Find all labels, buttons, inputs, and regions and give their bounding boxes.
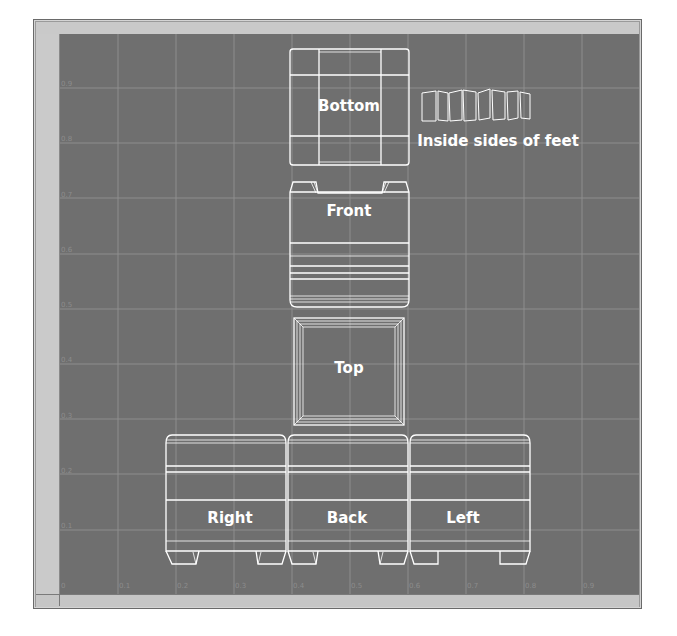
svg-text:0.6: 0.6: [61, 246, 73, 254]
svg-text:0.4: 0.4: [61, 356, 73, 364]
label-right: Right: [207, 509, 252, 527]
label-bottom: Bottom: [318, 97, 380, 115]
svg-text:0.8: 0.8: [525, 582, 536, 590]
svg-text:0.5: 0.5: [351, 582, 362, 590]
uv-shell-back[interactable]: [288, 435, 408, 564]
ruler-corner: [36, 594, 60, 606]
horizontal-scrollbar[interactable]: [36, 594, 639, 607]
svg-text:0.2: 0.2: [177, 582, 188, 590]
ruler-left: [36, 34, 60, 594]
uv-canvas: 0 0.1 0.2 0.3 0.4 0.5 0.6 0.7 0.8 0.9 0.…: [60, 34, 639, 594]
svg-text:0.4: 0.4: [293, 582, 305, 590]
svg-text:0.6: 0.6: [409, 582, 421, 590]
svg-text:0.8: 0.8: [61, 135, 72, 143]
uv-shell-left[interactable]: [410, 435, 530, 564]
uv-shell-inside-feet[interactable]: [422, 89, 530, 121]
svg-text:0: 0: [61, 582, 65, 590]
label-left: Left: [446, 509, 479, 527]
label-top: Top: [334, 359, 364, 377]
svg-text:0.9: 0.9: [61, 80, 72, 88]
label-front: Front: [327, 202, 372, 220]
svg-text:0.1: 0.1: [119, 582, 130, 590]
svg-text:0.7: 0.7: [61, 191, 72, 199]
x-axis-ticks: 0 0.1 0.2 0.3 0.4 0.5 0.6 0.7 0.8 0.9: [61, 582, 594, 590]
svg-text:0.3: 0.3: [235, 582, 246, 590]
uv-shell-right[interactable]: [166, 435, 286, 564]
svg-text:0.1: 0.1: [61, 522, 72, 530]
svg-text:0.2: 0.2: [61, 467, 72, 475]
uv-viewport[interactable]: 0 0.1 0.2 0.3 0.4 0.5 0.6 0.7 0.8 0.9 0.…: [60, 34, 639, 594]
label-back: Back: [327, 509, 368, 527]
label-inside-feet: Inside sides of feet: [417, 132, 579, 150]
svg-text:0.7: 0.7: [467, 582, 478, 590]
svg-text:0.9: 0.9: [583, 582, 594, 590]
svg-text:0.5: 0.5: [61, 301, 72, 309]
y-axis-ticks: 0.1 0.2 0.3 0.4 0.5 0.6 0.7 0.8 0.9: [61, 80, 73, 530]
svg-text:0.3: 0.3: [61, 412, 72, 420]
